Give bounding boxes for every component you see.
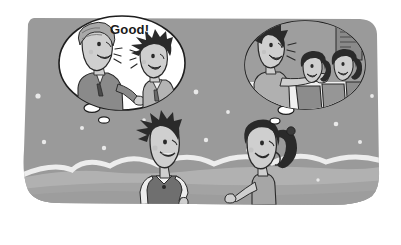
illustration-canvas: Good!	[0, 0, 401, 245]
girl-eye	[260, 141, 264, 146]
boy-eye	[163, 140, 167, 145]
cartoon-illustration	[0, 0, 401, 245]
speech-text-good: Good!	[110, 22, 149, 37]
